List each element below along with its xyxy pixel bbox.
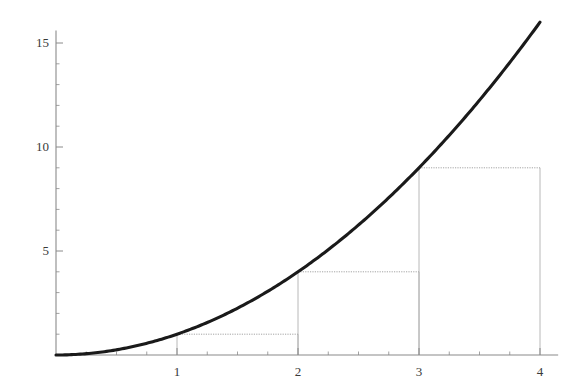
x-axis-tick-label: 1 — [174, 364, 181, 380]
y-axis-tick-label: 10 — [36, 139, 49, 155]
x-axis-tick-label: 4 — [537, 364, 544, 380]
riemann-rectangles — [177, 168, 540, 355]
x-axis-tick-label: 3 — [416, 364, 423, 380]
y-axis-tick-label: 5 — [43, 243, 50, 259]
x-axis-tick-label: 2 — [295, 364, 302, 380]
y-axis-tick-label: 15 — [36, 35, 49, 51]
axes — [56, 31, 558, 355]
chart-screenshot: 123451015 — [0, 0, 578, 389]
riemann-sum-plot — [0, 0, 578, 389]
